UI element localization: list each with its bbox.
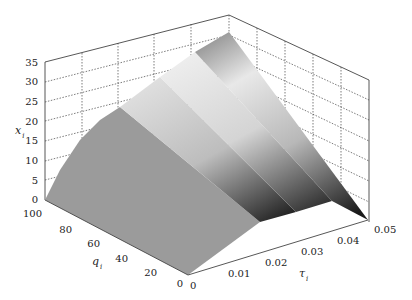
svg-text:60: 60 — [87, 238, 100, 249]
svg-text:0.01: 0.01 — [228, 268, 250, 279]
svg-text:0: 0 — [32, 194, 38, 205]
svg-text:0.04: 0.04 — [337, 235, 359, 246]
q-axis-label: qi — [92, 255, 102, 271]
svg-text:20: 20 — [144, 267, 157, 278]
svg-text:0.05: 0.05 — [374, 224, 396, 235]
svg-text:10: 10 — [25, 155, 38, 166]
z-axis: 0 5 10 15 20 25 30 35 xi — [15, 57, 38, 205]
svg-text:15: 15 — [25, 135, 38, 146]
svg-text:20: 20 — [25, 116, 38, 127]
svg-text:0.02: 0.02 — [265, 257, 287, 268]
svg-text:5: 5 — [32, 175, 38, 186]
svg-text:100: 100 — [23, 208, 42, 219]
svg-text:0: 0 — [190, 280, 196, 291]
svg-text:0.03: 0.03 — [301, 246, 323, 257]
svg-text:40: 40 — [115, 253, 128, 264]
svg-text:30: 30 — [25, 76, 38, 87]
svg-text:35: 35 — [25, 57, 38, 68]
svg-text:0: 0 — [177, 278, 183, 289]
svg-text:80: 80 — [59, 224, 72, 235]
tau-axis-label: τi — [299, 267, 308, 283]
svg-text:25: 25 — [25, 96, 38, 107]
z-axis-label: xi — [15, 124, 24, 140]
surface-plot: 0 5 10 15 20 25 30 35 xi 100 80 60 40 20… — [0, 0, 412, 300]
